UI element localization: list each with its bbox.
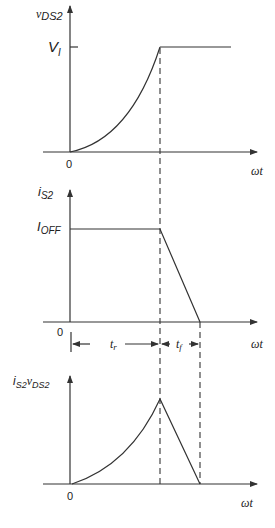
vds-y-label: vDS2 <box>36 7 63 22</box>
is-y-label: iS2 <box>38 184 54 201</box>
tf-label: tf <box>176 337 183 352</box>
power-x-label: ωt <box>241 496 253 510</box>
switching-waveform-diagram: vDS2 VI 0 ωt iS2 IOFF 0 ωt tr tf iS2vDS2… <box>0 0 275 528</box>
vds-rise-curve <box>70 47 160 152</box>
is-origin-label: 0 <box>57 326 63 338</box>
ioff-label: IOFF <box>37 219 62 236</box>
tr-label: tr <box>110 337 117 352</box>
vds-x-label: ωt <box>251 164 263 178</box>
panel-power: iS2vDS2 0 ωt <box>13 374 257 510</box>
power-waveform <box>72 399 200 484</box>
is-x-label: ωt <box>251 337 263 351</box>
power-origin-label: 0 <box>67 490 73 502</box>
vds-origin-label: 0 <box>66 158 72 170</box>
power-y-label: iS2vDS2 <box>13 374 50 390</box>
panel-is: iS2 IOFF 0 ωt tr tf <box>37 184 263 352</box>
vi-label: VI <box>48 38 61 58</box>
panel-vds: vDS2 VI 0 ωt <box>36 6 263 178</box>
is-waveform <box>70 229 200 322</box>
